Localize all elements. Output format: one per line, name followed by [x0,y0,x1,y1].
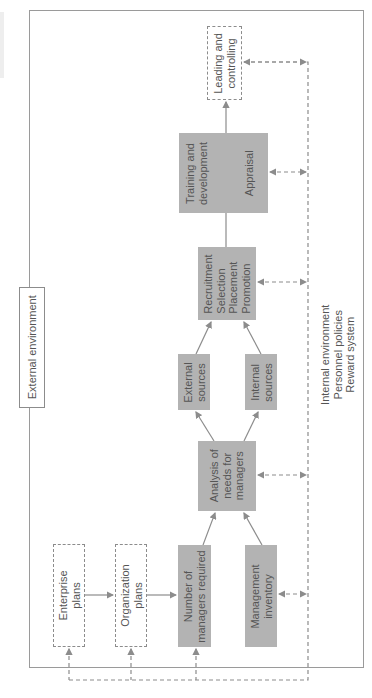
node-text: controlling [225,33,238,94]
node-text: Organization [119,564,132,626]
node-text: sources [194,362,207,402]
node-text: Placement [227,254,240,313]
node-text: Number of [182,550,195,642]
node-text: plans [131,564,144,626]
node-training-development: Training anddevelopment [179,133,213,213]
node-management-inventory: Managementinventory [245,545,277,647]
node-number-of-managers: Number ofmanagers required [178,545,211,647]
node-text: inventory [261,564,274,628]
node-text: managers [233,449,246,502]
external-environment-label-box: External environment [19,287,45,408]
node-text: Promotion [240,254,253,313]
node-text: Internal [249,363,262,402]
node-organization-plans: Organizationplans [115,544,147,647]
node-text: development [196,142,209,205]
external-environment-label: External environment [26,296,39,400]
node-text: External [182,362,195,402]
node-internal-sources: Internalsources [245,354,277,410]
node-appraisal: Appraisal [237,133,261,213]
node-recruitment: RecruitmentSelectionPlacementPromotion [198,247,256,320]
node-text: Analysis of [208,449,221,502]
node-external-sources: Externalsources [178,354,210,410]
node-enterprise-plans: Enterpriseplans [53,544,85,647]
node-text: needs for [221,449,234,502]
node-text: Training and [184,142,197,205]
node-text: Appraisal [243,150,256,196]
node-text: Management [249,564,262,628]
node-leading-controlling: Leading andcontrolling [207,26,242,100]
node-text: Enterprise [57,570,70,620]
node-text: Selection [215,254,228,313]
node-training-appraisal: Training anddevelopment Appraisal [179,133,268,213]
node-text: plans [69,570,82,620]
node-text: Personnel policies [332,305,345,405]
internal-environment-label: Internal environmentPersonnel policiesRe… [318,290,358,420]
node-text: managers required [195,550,208,642]
node-text: Internal environment [319,305,332,405]
node-text: Leading and [212,33,225,94]
node-analysis-of-needs: Analysis ofneeds formanagers [198,441,256,511]
node-text: sources [261,363,274,402]
node-text: Recruitment [202,254,215,313]
node-text: Reward system [344,305,357,405]
